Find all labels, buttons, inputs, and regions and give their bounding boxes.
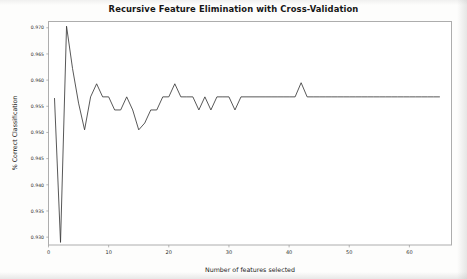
y-tick-label: 0.930: [31, 235, 44, 240]
figure-canvas: Recursive Feature Elimination with Cross…: [0, 0, 467, 279]
y-tick-label: 0.965: [31, 52, 44, 57]
y-tick-label: 0.940: [31, 183, 44, 188]
y-tick-label: 0.935: [31, 209, 44, 214]
y-axis-title: % Correct Classification: [11, 96, 18, 171]
y-axis-ticks: 0.9300.9350.9400.9450.9500.9550.9600.965…: [31, 25, 49, 239]
y-tick-label: 0.960: [31, 78, 44, 83]
y-tick-label: 0.955: [31, 104, 44, 109]
x-tick-label: 40: [286, 249, 292, 255]
x-tick-label: 20: [166, 249, 172, 255]
x-axis-ticks: 0102030405060: [47, 245, 413, 255]
y-tick-label: 0.950: [31, 130, 44, 135]
chart-plot-area: 0.9300.9350.9400.9450.9500.9550.9600.965…: [0, 0, 467, 279]
y-tick-label: 0.970: [31, 25, 44, 30]
x-tick-label: 30: [226, 249, 232, 255]
x-tick-label: 10: [105, 249, 111, 255]
plot-border: [49, 22, 452, 246]
x-tick-label: 50: [346, 249, 352, 255]
y-tick-label: 0.945: [31, 156, 44, 161]
x-axis-title: Number of features selected: [205, 266, 295, 273]
x-tick-label: 60: [406, 249, 412, 255]
x-tick-label: 0: [47, 249, 50, 255]
